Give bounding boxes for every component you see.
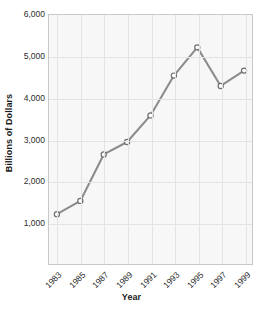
gridline-vertical bbox=[81, 15, 82, 264]
data-point-markers bbox=[54, 45, 246, 217]
line-series-billions-of-dollars bbox=[57, 47, 244, 214]
y-axis-tick-labels: 1,0002,0003,0004,0005,0006,000 bbox=[14, 0, 45, 310]
x-tick-label: 1999 bbox=[232, 270, 252, 290]
gridline-vertical bbox=[128, 15, 129, 264]
y-tick-label: 5,000 bbox=[14, 51, 45, 61]
x-tick-label: 1983 bbox=[43, 270, 63, 290]
y-tick-label: 6,000 bbox=[14, 9, 45, 19]
x-tick-label: 1997 bbox=[208, 270, 228, 290]
x-tick-label: 1993 bbox=[161, 270, 181, 290]
chart-figure: Billions of Dollars 1,0002,0003,0004,000… bbox=[0, 0, 263, 310]
x-tick-label: 1995 bbox=[185, 270, 205, 290]
y-axis-title: Billions of Dollars bbox=[4, 93, 14, 171]
gridline-vertical bbox=[246, 15, 247, 264]
x-tick-label: 1985 bbox=[67, 270, 87, 290]
x-tick-label: 1987 bbox=[90, 270, 110, 290]
x-axis-tick-labels: 198319851987198919911993199519971999 bbox=[0, 265, 263, 295]
y-tick-label: 4,000 bbox=[14, 93, 45, 103]
gridline-vertical bbox=[57, 15, 58, 264]
x-tick-label: 1989 bbox=[114, 270, 134, 290]
gridline-vertical bbox=[175, 15, 176, 264]
x-axis-title: Year bbox=[0, 292, 263, 302]
plot-area bbox=[48, 14, 253, 265]
gridline-vertical bbox=[152, 15, 153, 264]
gridline-vertical bbox=[199, 15, 200, 264]
y-tick-label: 2,000 bbox=[14, 176, 45, 186]
gridline-vertical bbox=[104, 15, 105, 264]
gridline-vertical bbox=[222, 15, 223, 264]
y-tick-label: 3,000 bbox=[14, 135, 45, 145]
x-tick-label: 1991 bbox=[138, 270, 158, 290]
y-tick-label: 1,000 bbox=[14, 218, 45, 228]
